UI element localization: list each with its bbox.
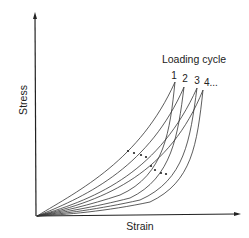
x-axis-label: Strain	[126, 220, 154, 232]
loop-cycle-4	[37, 90, 203, 216]
cycle-label-3: 3	[194, 75, 200, 86]
cycle-label-4: 4...	[204, 77, 218, 88]
loop-cycle-1	[37, 82, 175, 216]
stress-strain-figure: Stress Strain Loading cycle 1 2 3 4...	[0, 0, 249, 238]
legend-title: Loading cycle	[162, 53, 226, 65]
y-axis-arrow-icon	[33, 12, 37, 19]
axes	[33, 12, 241, 216]
loop-cycle-3	[37, 88, 197, 216]
y-axis-label: Stress	[17, 85, 29, 115]
cycle-label-2: 2	[182, 73, 188, 84]
cycle-label-1: 1	[171, 70, 177, 81]
y-axis	[35, 16, 36, 216]
x-axis-arrow-icon	[234, 212, 241, 216]
